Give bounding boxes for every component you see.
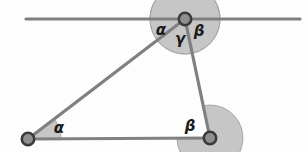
angle-label-gamma-apex: γ	[175, 30, 187, 48]
vertex-marker-apex	[179, 13, 191, 25]
angle-label-alpha-apex: α	[156, 21, 167, 39]
angle-label-beta-bottom-right: β	[184, 117, 196, 135]
angle-label-beta-apex: β	[193, 22, 205, 40]
vertex-marker-bottom-left	[22, 133, 34, 145]
triangle-side-base	[28, 138, 210, 139]
angle-label-alpha-bottom-left: α	[54, 119, 65, 137]
geometry-canvas: α γ β α β	[0, 0, 308, 152]
geometry-figure: α γ β α β	[0, 0, 308, 152]
vertex-marker-bottom-right	[204, 132, 216, 144]
